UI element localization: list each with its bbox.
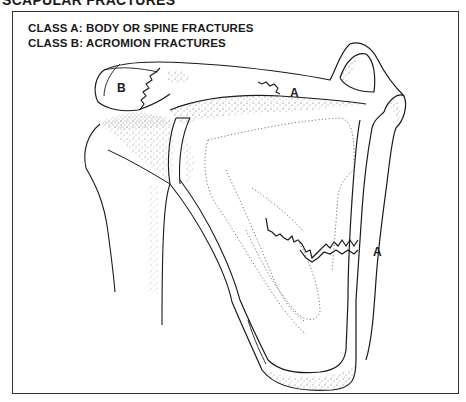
acromion-fracture-line — [140, 68, 160, 110]
scapular-spine — [95, 43, 404, 124]
glenoid-rim — [168, 118, 240, 302]
scapula-illustration — [0, 0, 466, 402]
legend-item-class-b: CLASS B: ACROMION FRACTURES — [28, 36, 254, 51]
body-fracture-label: A — [373, 245, 382, 259]
legend-item-class-a: CLASS A: BODY OR SPINE FRACTURES — [28, 21, 254, 36]
spine-fracture-label: A — [290, 86, 299, 100]
legend: CLASS A: BODY OR SPINE FRACTURES CLASS B… — [28, 21, 254, 51]
fossa-contours — [205, 118, 354, 334]
humerus — [85, 115, 175, 325]
body-fracture-line — [266, 218, 358, 262]
spine-fracture-line — [258, 82, 280, 94]
acromion-fracture-label: B — [117, 81, 126, 95]
